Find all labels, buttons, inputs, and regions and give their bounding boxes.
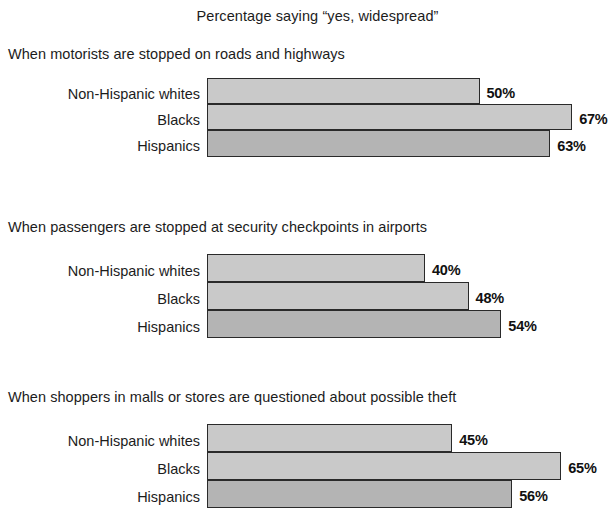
bar-rect xyxy=(207,310,501,338)
bar-rect xyxy=(207,254,425,282)
bar-category-label: Blacks xyxy=(157,462,200,477)
bar-category-label: Blacks xyxy=(157,292,200,307)
bar-rect xyxy=(207,480,512,508)
bar-rect xyxy=(207,130,550,157)
bar-category-label: Hispanics xyxy=(137,139,200,154)
bar-category-label: Non-Hispanic whites xyxy=(68,434,200,449)
bar-value-label: 67% xyxy=(579,112,607,127)
bar-rect xyxy=(207,452,561,480)
bar-rect xyxy=(207,104,572,130)
panel-heading: When shoppers in malls or stores are que… xyxy=(8,389,456,405)
bar-category-label: Non-Hispanic whites xyxy=(68,87,200,102)
bar-value-label: 48% xyxy=(476,291,504,306)
bar-rect xyxy=(207,424,452,452)
bar-value-label: 45% xyxy=(459,433,487,448)
bar-category-label: Hispanics xyxy=(137,320,200,335)
bar-value-label: 50% xyxy=(487,86,515,101)
chart-container: Percentage saying “yes, widespread” When… xyxy=(0,0,613,518)
bar-value-label: 63% xyxy=(557,139,585,154)
panel-heading: When passengers are stopped at security … xyxy=(8,219,427,235)
bar-value-label: 56% xyxy=(519,489,547,504)
bar-rect xyxy=(207,78,480,104)
bar-category-label: Hispanics xyxy=(137,490,200,505)
panel-heading: When motorists are stopped on roads and … xyxy=(8,46,345,62)
bar-value-label: 54% xyxy=(508,319,536,334)
bar-category-label: Blacks xyxy=(157,113,200,128)
bar-value-label: 40% xyxy=(432,263,460,278)
bar-rect xyxy=(207,282,469,310)
bar-category-label: Non-Hispanic whites xyxy=(68,264,200,279)
chart-title: Percentage saying “yes, widespread” xyxy=(0,8,613,24)
bar-value-label: 65% xyxy=(568,461,596,476)
